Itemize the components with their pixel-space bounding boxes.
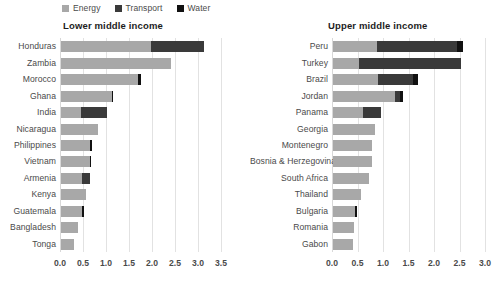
category-label: Bulgaria bbox=[250, 206, 328, 216]
category-label: Bangladesh bbox=[0, 222, 56, 232]
x-tick-label: 1.5 bbox=[403, 258, 415, 268]
bar-row: Montenegro bbox=[250, 139, 499, 151]
bar-segment-transport bbox=[81, 107, 107, 118]
bar-segment-energy bbox=[333, 140, 372, 151]
bar-row: Honduras bbox=[0, 40, 250, 52]
category-label: Turkey bbox=[250, 58, 328, 68]
category-label: Honduras bbox=[0, 41, 56, 51]
bar-row: South Africa bbox=[250, 172, 499, 184]
x-tick-label: 2.0 bbox=[428, 258, 440, 268]
category-label: Georgia bbox=[250, 124, 328, 134]
plot-area-left: HondurasZambiaMoroccoGhanaIndiaNicaragua… bbox=[0, 38, 250, 274]
category-label: Montenegro bbox=[250, 140, 328, 150]
bar-row: Brazil bbox=[250, 73, 499, 85]
category-label: South Africa bbox=[250, 173, 328, 183]
bar-segment-energy bbox=[333, 41, 377, 52]
square-swatch-icon bbox=[177, 5, 184, 12]
category-label: Peru bbox=[250, 41, 328, 51]
stacked-bar bbox=[333, 91, 403, 102]
stacked-bar bbox=[61, 107, 107, 118]
category-label: Philippines bbox=[0, 140, 56, 150]
bar-segment-energy bbox=[61, 222, 78, 233]
bar-segment-energy bbox=[61, 74, 138, 85]
category-label: India bbox=[0, 107, 56, 117]
bar-segment-energy bbox=[333, 74, 378, 85]
bar-row: India bbox=[0, 106, 250, 118]
panel-lower-middle-income: Lower middle income HondurasZambiaMorocc… bbox=[0, 20, 250, 296]
chart-page: EnergyTransportWater Lower middle income… bbox=[0, 0, 499, 296]
bar-row: Philippines bbox=[0, 139, 250, 151]
bar-row: Zambia bbox=[0, 57, 250, 69]
bar-row: Tonga bbox=[0, 238, 250, 250]
bar-segment-energy bbox=[61, 206, 82, 217]
bar-row: Jordan bbox=[250, 90, 499, 102]
stacked-bar bbox=[333, 189, 361, 200]
bar-row: Thailand bbox=[250, 188, 499, 200]
x-tick-label: 2.5 bbox=[454, 258, 466, 268]
bar-segment-energy bbox=[333, 206, 355, 217]
x-tick-label: 1.0 bbox=[100, 258, 112, 268]
bar-segment-energy bbox=[333, 91, 395, 102]
x-tick-label: 0.0 bbox=[326, 258, 338, 268]
category-label: Ghana bbox=[0, 91, 56, 101]
bar-row: Bulgaria bbox=[250, 205, 499, 217]
category-label: Guatemala bbox=[0, 206, 56, 216]
bar-segment-transport bbox=[378, 74, 413, 85]
stacked-bar bbox=[61, 91, 113, 102]
stacked-bar bbox=[61, 41, 204, 52]
chart-legend: EnergyTransportWater bbox=[0, 4, 499, 13]
stacked-bar bbox=[61, 74, 141, 85]
bar-segment-energy bbox=[333, 239, 353, 250]
stacked-bar bbox=[61, 239, 74, 250]
x-tick-label: 2.5 bbox=[169, 258, 181, 268]
panel-title-right: Upper middle income bbox=[328, 20, 427, 31]
bar-row: Georgia bbox=[250, 123, 499, 135]
bar-segment-energy bbox=[333, 58, 359, 69]
x-tick-label: 1.5 bbox=[123, 258, 135, 268]
bar-segment-water bbox=[90, 156, 91, 167]
bar-segment-water bbox=[355, 206, 357, 217]
bar-segment-water bbox=[400, 91, 403, 102]
bar-row: Bosnia & Herzegovina bbox=[250, 155, 499, 167]
panel-upper-middle-income: Upper middle income PeruTurkeyBrazilJord… bbox=[250, 20, 499, 296]
bar-segment-water bbox=[112, 91, 113, 102]
category-label: Tonga bbox=[0, 239, 56, 249]
stacked-bar bbox=[61, 140, 92, 151]
bar-segment-water bbox=[82, 206, 83, 217]
plot-area-right: PeruTurkeyBrazilJordanPanamaGeorgiaMonte… bbox=[250, 38, 499, 274]
bar-row: Vietnam bbox=[0, 155, 250, 167]
stacked-bar bbox=[333, 74, 418, 85]
category-label: Zambia bbox=[0, 58, 56, 68]
bar-segment-energy bbox=[61, 189, 86, 200]
bar-segment-energy bbox=[61, 91, 112, 102]
category-label: Brazil bbox=[250, 74, 328, 84]
bar-row: Guatemala bbox=[0, 205, 250, 217]
stacked-bar bbox=[61, 222, 78, 233]
stacked-bar bbox=[333, 107, 381, 118]
bar-segment-energy bbox=[61, 239, 74, 250]
stacked-bar bbox=[333, 206, 357, 217]
category-label: Thailand bbox=[250, 189, 328, 199]
legend-item-water: Water bbox=[177, 4, 211, 13]
bar-row: Romania bbox=[250, 221, 499, 233]
stacked-bar bbox=[333, 58, 461, 69]
stacked-bar bbox=[333, 41, 463, 52]
x-tick-label: 2.0 bbox=[146, 258, 158, 268]
bar-row: Nicaragua bbox=[0, 123, 250, 135]
bar-row: Armenia bbox=[0, 172, 250, 184]
x-tick-label: 3.0 bbox=[479, 258, 491, 268]
x-tick-label: 0.0 bbox=[54, 258, 66, 268]
category-label: Vietnam bbox=[0, 156, 56, 166]
bar-row: Ghana bbox=[0, 90, 250, 102]
square-swatch-icon bbox=[115, 5, 122, 12]
x-tick-label: 1.0 bbox=[377, 258, 389, 268]
bar-segment-energy bbox=[61, 41, 151, 52]
bar-row: Kenya bbox=[0, 188, 250, 200]
category-label: Gabon bbox=[250, 239, 328, 249]
category-label: Panama bbox=[250, 107, 328, 117]
category-label: Armenia bbox=[0, 173, 56, 183]
bar-row: Panama bbox=[250, 106, 499, 118]
x-tick-label: 0.5 bbox=[77, 258, 89, 268]
bar-segment-transport bbox=[151, 41, 204, 52]
stacked-bar bbox=[333, 173, 369, 184]
